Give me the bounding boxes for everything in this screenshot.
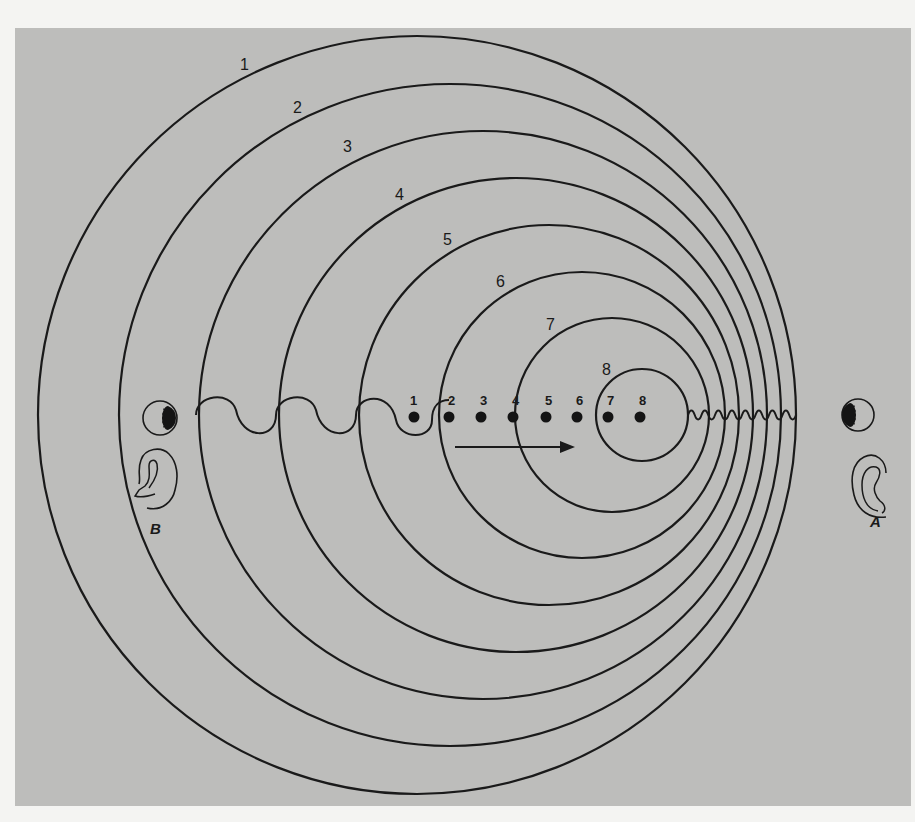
source-label: 5 [545,393,552,408]
source-label: 6 [576,393,583,408]
wavefront-label: 1 [240,56,249,73]
wavefront-label: 7 [546,316,555,333]
source-dot [409,412,420,423]
source-dot [603,412,614,423]
source-label: 3 [480,393,487,408]
source-dot [635,412,646,423]
source-dot [476,412,487,423]
source-label: 4 [512,393,520,408]
wavefront-label: 3 [343,138,352,155]
source-label: 8 [639,393,646,408]
doppler-diagram: 12345678 12345678 B A [0,0,915,822]
wavefront-label: 2 [293,99,302,116]
wavefront-label: 4 [395,186,404,203]
wavefront-label: 6 [496,273,505,290]
source-label: 2 [448,393,455,408]
source-dot [572,412,583,423]
source-dot [541,412,552,423]
wavefront-label: 8 [602,361,611,378]
source-label: 1 [410,393,417,408]
wavefront-label: 5 [443,231,452,248]
source-label: 7 [607,393,614,408]
source-dot [508,412,519,423]
observer-label-b: B [150,520,161,537]
source-dot [444,412,455,423]
observer-label-a: A [869,513,881,530]
